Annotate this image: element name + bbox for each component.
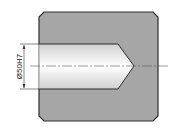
arrowhead-top [23, 45, 26, 50]
arrowhead-bottom [23, 84, 26, 89]
blind-hole [39, 44, 134, 89]
technical-drawing: Ø50H7 [0, 0, 179, 136]
dimension-label: Ø50H7 [15, 53, 24, 79]
